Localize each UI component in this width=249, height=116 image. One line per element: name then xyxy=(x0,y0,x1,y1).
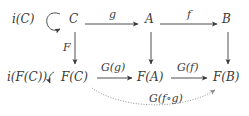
label-f: f xyxy=(187,9,191,20)
node-iC: i(C) xyxy=(12,13,34,25)
node-FC: F(C) xyxy=(61,71,88,83)
node-C: C xyxy=(69,13,78,25)
label-Gfg: G(f∘g) xyxy=(149,93,183,104)
commutative-diagram: i(C) C A B g f F i(F(C)) F(C) F(A) F(B) … xyxy=(0,0,249,116)
diagram-arrows xyxy=(0,0,249,116)
node-A: A xyxy=(145,13,154,25)
node-iFC: i(F(C)) xyxy=(7,71,47,83)
identity-loop-fc-arrow xyxy=(49,72,54,83)
label-Gf: G(f) xyxy=(177,62,198,73)
label-Gg: G(g) xyxy=(101,62,125,73)
identity-loop-c-arrow xyxy=(47,13,60,30)
label-F: F xyxy=(63,42,71,53)
node-B: B xyxy=(222,13,231,25)
node-FB: F(B) xyxy=(213,71,240,83)
node-FA: F(A) xyxy=(137,71,163,83)
label-g: g xyxy=(109,9,116,20)
